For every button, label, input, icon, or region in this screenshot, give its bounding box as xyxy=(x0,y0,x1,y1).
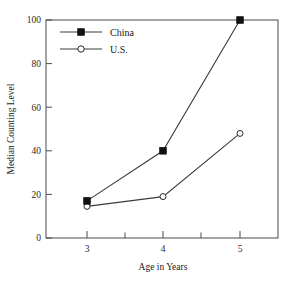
x-tick-label-3: 3 xyxy=(85,244,90,254)
data-point-china-age3 xyxy=(84,198,91,205)
y-tick-label-60: 60 xyxy=(32,103,42,113)
y-axis-title: Median Counting Level xyxy=(6,83,16,174)
y-tick-label-0: 0 xyxy=(36,233,41,243)
y-tick-label-40: 40 xyxy=(32,146,42,156)
legend-marker-filled-square-icon xyxy=(78,29,85,36)
data-point-china-age4 xyxy=(160,148,167,155)
legend-label-china: China xyxy=(110,27,134,38)
line-chart: 0 20 40 60 80 100 Median Counting Level … xyxy=(0,0,297,287)
x-tick-label-4: 4 xyxy=(161,244,166,254)
data-point-china-age5 xyxy=(237,17,244,24)
y-tick-label-80: 80 xyxy=(32,59,42,69)
legend-entry-china: China xyxy=(60,27,134,38)
series-markers-us xyxy=(84,130,243,209)
data-point-us-age5 xyxy=(237,130,243,136)
figure-container: 0 20 40 60 80 100 Median Counting Level … xyxy=(0,0,297,287)
chart-legend: China U.S. xyxy=(60,27,134,55)
legend-entry-us: U.S. xyxy=(60,44,128,55)
y-axis-ticks xyxy=(46,20,52,238)
legend-label-us: U.S. xyxy=(110,44,128,55)
x-axis-tick-labels: 3 4 5 xyxy=(85,244,243,254)
plot-frame xyxy=(46,20,278,238)
caption-remnant xyxy=(0,277,297,286)
x-axis-title: Age in Years xyxy=(139,262,188,272)
x-tick-label-5: 5 xyxy=(238,244,243,254)
legend-marker-open-circle-icon xyxy=(78,46,84,52)
x-axis-ticks xyxy=(87,231,240,238)
series-markers-china xyxy=(84,17,244,205)
y-axis-tick-labels: 0 20 40 60 80 100 xyxy=(27,15,42,243)
y-tick-label-100: 100 xyxy=(27,15,42,25)
data-point-us-age4 xyxy=(160,194,166,200)
y-tick-label-20: 20 xyxy=(32,190,42,200)
